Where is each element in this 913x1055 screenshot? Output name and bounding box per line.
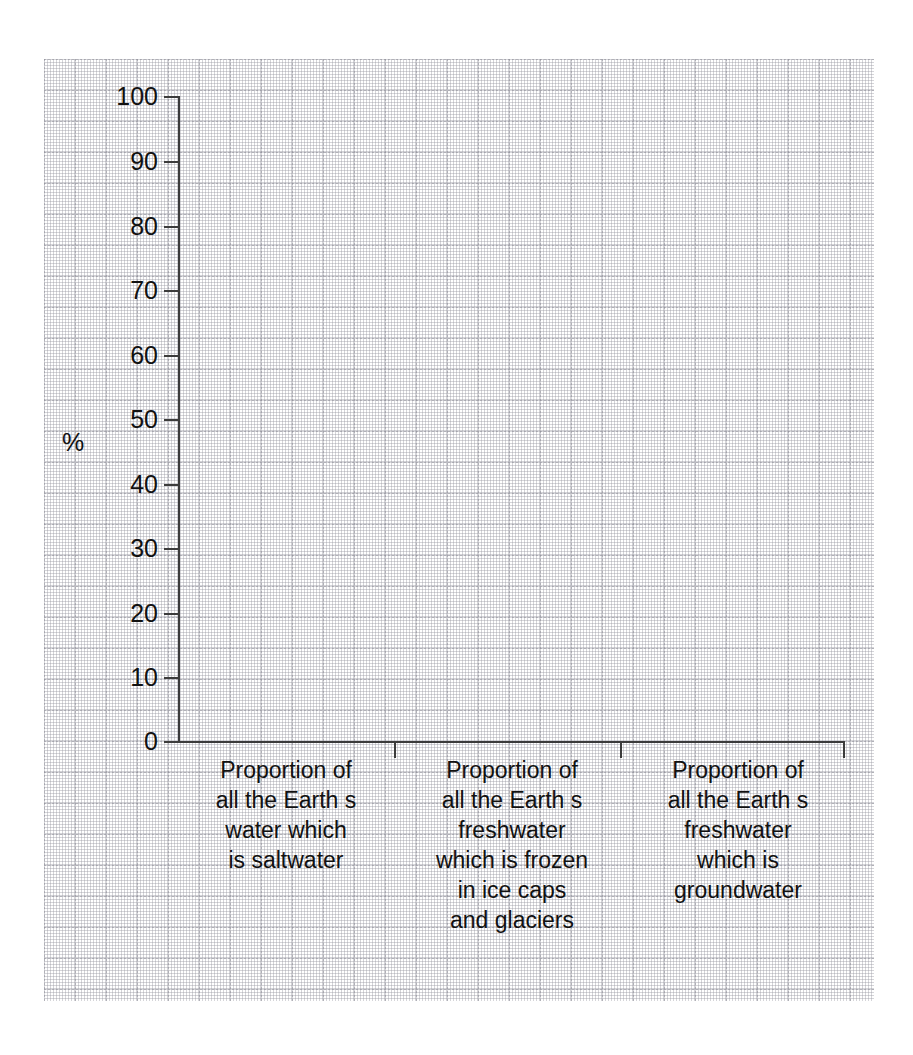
y-tick-label-100: 100: [98, 84, 158, 109]
y-tick-70: [164, 290, 179, 292]
y-tick-label-20: 20: [98, 601, 158, 626]
y-tick-label-50: 50: [98, 407, 158, 432]
y-tick-label-90: 90: [98, 149, 158, 174]
y-tick-50: [164, 419, 179, 421]
y-tick-label-60: 60: [98, 343, 158, 368]
y-tick-label-30: 30: [98, 536, 158, 561]
y-tick-90: [164, 161, 179, 163]
x-category-label-3: Proportion of all the Earth s freshwater…: [632, 755, 844, 905]
x-axis-line: [178, 741, 845, 743]
y-tick-40: [164, 484, 179, 486]
y-tick-label-80: 80: [98, 214, 158, 239]
y-tick-100: [164, 96, 179, 98]
x-tick-separator-1: [394, 742, 396, 758]
y-tick-label-70: 70: [98, 278, 158, 303]
y-tick-60: [164, 355, 179, 357]
y-tick-20: [164, 613, 179, 615]
y-tick-0: [164, 741, 179, 743]
y-tick-label-10: 10: [98, 665, 158, 690]
y-axis-title: %: [62, 430, 84, 455]
y-tick-10: [164, 677, 179, 679]
y-tick-30: [164, 548, 179, 550]
y-tick-label-0: 0: [98, 729, 158, 754]
bar-chart-plot-area: % 100 90 80 70 60 50 40 30 20 10 0 Propo…: [0, 0, 913, 1055]
x-tick-separator-2: [620, 742, 622, 758]
y-tick-label-40: 40: [98, 472, 158, 497]
x-category-label-2: Proportion of all the Earth s freshwater…: [406, 755, 618, 935]
y-tick-80: [164, 226, 179, 228]
x-category-label-1: Proportion of all the Earth s water whic…: [180, 755, 392, 875]
